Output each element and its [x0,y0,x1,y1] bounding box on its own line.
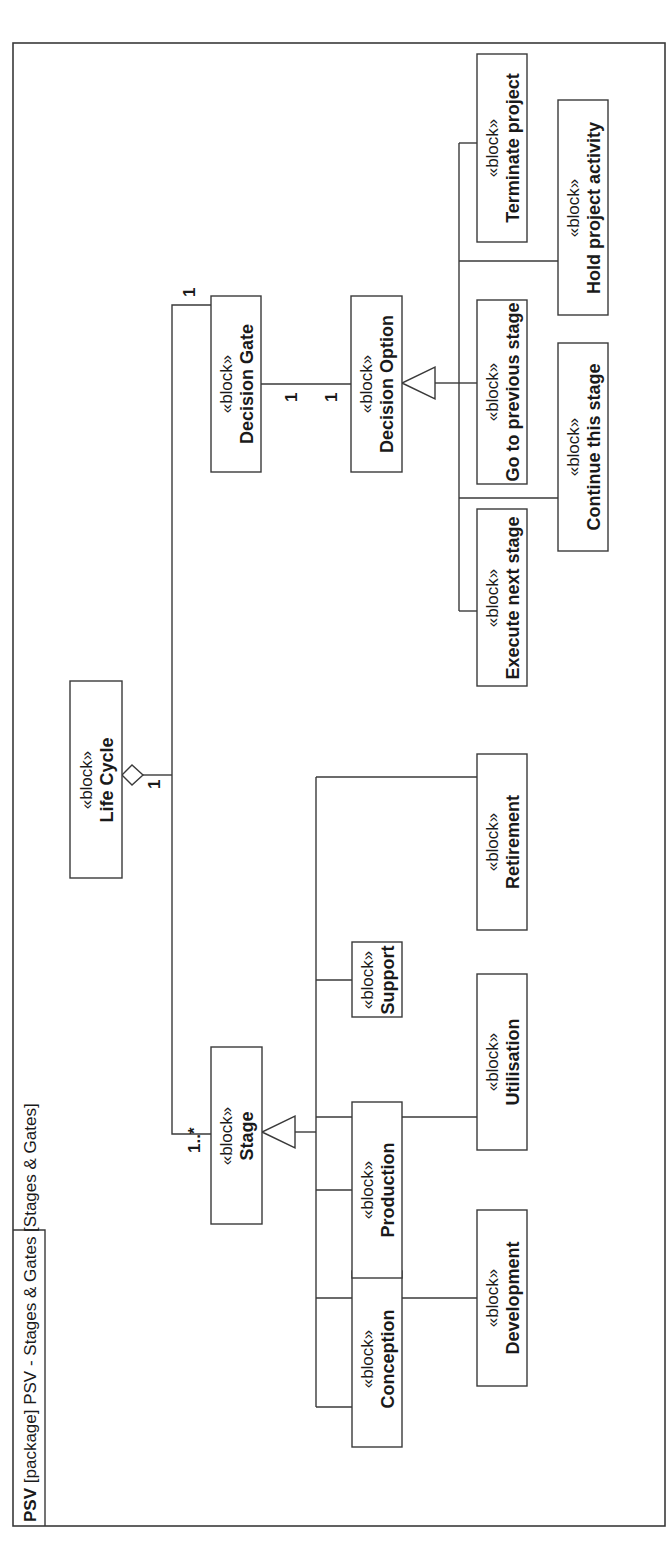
block-name: Production [378,1143,398,1238]
block-name: Support [378,946,398,1015]
block-name: Go to previous stage [503,302,523,481]
stereotype-label: «block» [564,418,583,477]
stereotype-label: «block» [358,1330,377,1389]
block-name: Utilisation [503,1018,523,1105]
rotated-diagram-canvas: PSV [package] PSV - Stages & Gates [Stag… [0,0,672,1551]
stereotype-label: «block» [358,951,377,1010]
block-retirement[interactable]: «block» Retirement [477,754,527,930]
block-go-to-previous-stage[interactable]: «block» Go to previous stage [477,300,527,484]
block-name: Stage [237,1111,257,1160]
stereotype-label: «block» [483,1033,502,1092]
block-production[interactable]: «block» Production [352,1102,402,1278]
block-name: Retirement [503,795,523,889]
mult-lifecycle-end: 1 [145,780,164,789]
stereotype-label: «block» [217,355,236,414]
block-decision-gate[interactable]: «block» Decision Gate [211,296,261,472]
block-name: Decision Option [377,315,397,453]
stereotype-label: «block» [483,119,502,178]
block-hold-project-activity[interactable]: «block» Hold project activity [558,100,608,315]
block-name: Conception [378,1310,398,1409]
block-utilisation[interactable]: «block» Utilisation [477,974,527,1150]
block-stage[interactable]: «block» Stage [211,1047,262,1224]
block-name: Terminate project [503,73,523,223]
block-name: Development [503,1241,523,1354]
stereotype-label: «block» [483,813,502,872]
block-name: Hold project activity [584,122,604,294]
mult-stage-end: 1..* [185,1127,204,1153]
block-decision-option[interactable]: «block» Decision Option [351,296,402,472]
frame-title-text: [package] PSV - Stages & Gates [Stages &… [21,1103,40,1488]
block-continue-this-stage[interactable]: «block» Continue this stage [558,343,608,551]
mult-gate-option-gate: 1 [282,393,301,402]
stereotype-label: «block» [357,355,376,414]
block-support[interactable]: «block» Support [352,942,402,1017]
frame-title-kind: PSV [21,1487,40,1522]
block-conception[interactable]: «block» Conception [352,1271,402,1447]
block-execute-next-stage[interactable]: «block» Execute next stage [477,509,527,686]
mult-gate-from-lifecycle: 1 [180,288,199,297]
block-development[interactable]: «block» Development [477,1210,527,1386]
block-name: Continue this stage [584,363,604,530]
mult-gate-option-option: 1 [322,393,341,402]
stereotype-label: «block» [77,751,96,810]
block-terminate-project[interactable]: «block» Terminate project [477,54,527,242]
block-name: Execute next stage [503,516,523,679]
block-name: Life Cycle [97,737,117,822]
stereotype-label: «block» [483,1269,502,1328]
stereotype-label: «block» [483,363,502,422]
block-life-cycle[interactable]: «block» Life Cycle [70,681,122,878]
block-name: Decision Gate [237,324,257,444]
sysml-package-diagram: PSV [package] PSV - Stages & Gates [Stag… [0,0,672,1551]
frame-title: PSV [package] PSV - Stages & Gates [Stag… [21,1103,40,1522]
stereotype-label: «block» [358,1161,377,1220]
stereotype-label: «block» [564,179,583,238]
stereotype-label: «block» [217,1107,236,1166]
stereotype-label: «block» [483,569,502,628]
